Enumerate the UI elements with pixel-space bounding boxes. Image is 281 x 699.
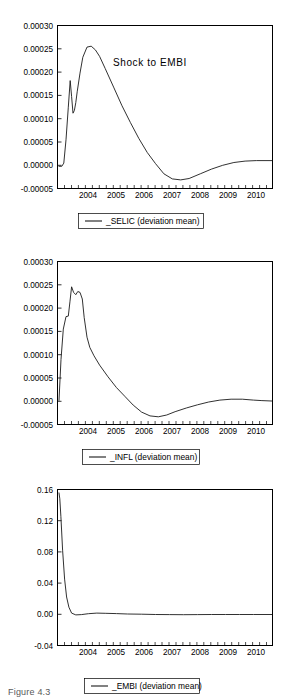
x-tick-label: 2005 — [107, 427, 126, 436]
legend-label: _EMBI (deviation mean) — [111, 681, 202, 691]
plot-frame — [58, 490, 273, 646]
x-tick-label: 2006 — [135, 427, 154, 436]
x-tick-label: 2006 — [135, 191, 154, 200]
y-tick-label: 0.00015 — [23, 327, 53, 336]
y-tick-label: 0.00010 — [23, 115, 53, 124]
y-tick-label: 0.00020 — [23, 68, 53, 77]
x-tick-label: 2009 — [219, 191, 238, 200]
x-tick-label: 2010 — [247, 427, 266, 436]
x-tick-label: 2006 — [135, 648, 154, 657]
y-tick-label: 0.00 — [37, 610, 53, 619]
x-tick-label: 2008 — [191, 427, 210, 436]
y-tick-label: 0.00015 — [23, 91, 53, 100]
y-tick-label: 0.08 — [37, 548, 53, 557]
figure-caption: Figure 4.3 — [8, 687, 51, 697]
x-axis-labels: 2004 2005 2006 2007 2008 2009 2010 — [79, 648, 266, 657]
y-tick-label: 0.00000 — [23, 397, 53, 406]
selic-chart-svg: 0.00030 0.00025 0.00020 0.00015 0.00010 … — [0, 0, 281, 232]
y-tick-label: 0.16 — [37, 486, 53, 495]
y-axis-ticks — [58, 26, 62, 189]
y-axis-ticks — [58, 262, 62, 425]
y-tick-label: -0.00005 — [21, 421, 54, 430]
x-tick-label: 2010 — [247, 648, 266, 657]
x-tick-label: 2007 — [163, 648, 182, 657]
chart-panel-selic: 0.00030 0.00025 0.00020 0.00015 0.00010 … — [0, 0, 281, 234]
y-tick-label: -0.04 — [34, 642, 53, 651]
chart-panel-infl: 0.00030 0.00025 0.00020 0.00015 0.00010 … — [0, 236, 281, 470]
y-axis-labels: 0.16 0.12 0.08 0.04 0.00 -0.04 — [34, 486, 53, 651]
embi-chart-svg: 0.16 0.12 0.08 0.04 0.00 -0.04 — [0, 472, 281, 697]
legend-label: _INFL (deviation mean) — [109, 452, 197, 462]
y-tick-label: 0.00025 — [23, 281, 53, 290]
x-tick-label: 2004 — [79, 648, 98, 657]
x-tick-label: 2005 — [107, 648, 126, 657]
y-tick-label: 0.00000 — [23, 161, 53, 170]
y-tick-label: 0.00025 — [23, 45, 53, 54]
x-tick-label: 2004 — [79, 191, 98, 200]
x-tick-label: 2007 — [163, 427, 182, 436]
x-axis-labels: 2004 2005 2006 2007 2008 2009 2010 — [79, 191, 266, 200]
y-axis-labels: 0.00030 0.00025 0.00020 0.00015 0.00010 … — [21, 22, 54, 194]
embi-series-line — [59, 493, 272, 615]
y-tick-label: 0.00005 — [23, 374, 53, 383]
plot-frame — [58, 262, 273, 425]
chart-panel-embi: 0.16 0.12 0.08 0.04 0.00 -0.04 — [0, 472, 281, 699]
y-tick-label: 0.04 — [37, 579, 53, 588]
x-tick-label: 2007 — [163, 191, 182, 200]
y-tick-label: 0.00020 — [23, 304, 53, 313]
x-tick-label: 2010 — [247, 191, 266, 200]
x-tick-label: 2009 — [219, 427, 238, 436]
x-axis-minor-ticks — [65, 185, 267, 189]
y-tick-label: 0.00005 — [23, 138, 53, 147]
plot-frame — [58, 26, 273, 189]
infl-chart-svg: 0.00030 0.00025 0.00020 0.00015 0.00010 … — [0, 236, 281, 468]
x-tick-label: 2004 — [79, 427, 98, 436]
x-axis-labels: 2004 2005 2006 2007 2008 2009 2010 — [79, 427, 266, 436]
selic-legend-svg: _SELIC (deviation mean) — [0, 208, 281, 234]
y-tick-label: 0.00030 — [23, 258, 53, 267]
x-tick-label: 2008 — [191, 191, 210, 200]
shock-annotation: Shock to EMBI — [113, 57, 187, 68]
infl-legend-svg: _INFL (deviation mean) — [0, 444, 281, 470]
x-axis-minor-ticks — [65, 642, 267, 646]
legend-label: _SELIC (deviation mean) — [105, 216, 200, 226]
y-axis-labels: 0.00030 0.00025 0.00020 0.00015 0.00010 … — [21, 258, 54, 430]
infl-series-line — [59, 287, 272, 417]
x-tick-label: 2005 — [107, 191, 126, 200]
y-tick-label: 0.12 — [37, 517, 53, 526]
x-axis-minor-ticks — [65, 421, 267, 425]
x-tick-label: 2009 — [219, 648, 238, 657]
y-tick-label: 0.00010 — [23, 351, 53, 360]
x-tick-label: 2008 — [191, 648, 210, 657]
y-tick-label: 0.00030 — [23, 22, 53, 31]
y-tick-label: -0.00005 — [21, 185, 54, 194]
